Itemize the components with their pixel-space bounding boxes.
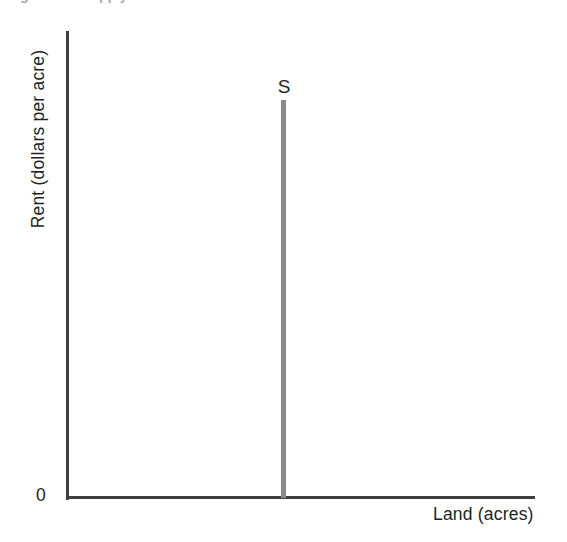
y-axis-line — [66, 31, 69, 500]
y-axis-title: Rent (dollars per acre) — [28, 50, 49, 229]
figure-caption: Figure The Supply of Land — [8, 0, 428, 4]
supply-curve-line — [281, 100, 286, 498]
y-axis-title-wrapper: Rent (dollars per acre) — [24, 39, 52, 239]
origin-label: 0 — [36, 485, 46, 506]
x-axis-title: Land (acres) — [433, 504, 534, 525]
x-axis-line — [66, 496, 535, 499]
supply-curve-label: S — [270, 76, 298, 98]
figure-container: Figure The Supply of Land S Rent (dollar… — [0, 0, 567, 542]
